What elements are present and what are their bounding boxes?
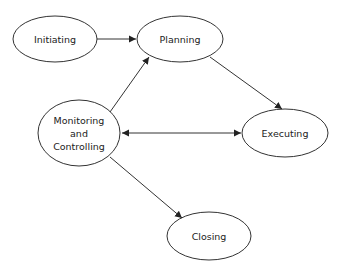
edge-monitoring-to-closing xyxy=(110,157,182,218)
node-planning-label: Planning xyxy=(137,16,223,62)
node-initiating-label: Initiating xyxy=(13,16,97,62)
node-executing-label: Executing xyxy=(242,109,328,157)
process-diagram: Initiating Planning Monitoring and Contr… xyxy=(0,0,341,276)
node-closing-label: Closing xyxy=(167,212,251,260)
node-monitoring-label: Monitoring and Controlling xyxy=(38,100,120,166)
edge-planning-to-executing xyxy=(210,57,282,109)
